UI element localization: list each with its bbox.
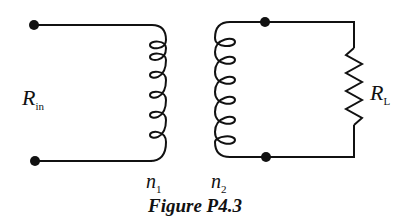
n1-label: n1 (146, 170, 162, 195)
r-in-sub: in (35, 100, 44, 112)
secondary-coil (215, 22, 235, 157)
secondary-top-wire (230, 22, 354, 48)
secondary-bottom-terminal (261, 152, 271, 162)
load-resistor (346, 48, 362, 125)
figure-caption: Figure P4.3 (148, 195, 242, 217)
primary-top-terminal (29, 20, 39, 30)
r-l-main: R (370, 80, 383, 105)
secondary-top-terminal (260, 17, 270, 27)
n2-sub: 2 (221, 183, 227, 195)
secondary-bottom-wire (230, 125, 354, 157)
n2-label: n2 (211, 170, 227, 195)
r-l-label: RL (370, 80, 390, 107)
r-in-label: Rin (22, 85, 44, 112)
primary-bottom-terminal (30, 156, 40, 166)
r-l-sub: L (383, 95, 390, 107)
r-in-main: R (22, 85, 35, 110)
primary-coil (150, 40, 166, 161)
n2-main: n (211, 170, 221, 192)
primary-top-wire (34, 25, 166, 40)
n1-main: n (146, 170, 156, 192)
transformer-circuit-diagram (0, 0, 409, 223)
n1-sub: 1 (156, 183, 162, 195)
